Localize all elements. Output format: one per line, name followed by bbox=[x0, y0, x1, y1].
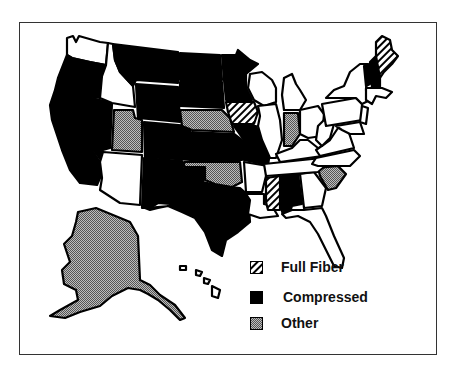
state-al bbox=[282, 174, 302, 212]
state-sd bbox=[180, 82, 224, 108]
other-swatch-icon bbox=[250, 317, 263, 330]
state-mi bbox=[282, 74, 306, 110]
full-fiber-swatch-icon bbox=[250, 261, 263, 274]
legend-label-other: Other bbox=[281, 315, 318, 331]
legend-item-other: Other bbox=[250, 315, 318, 331]
state-ms bbox=[266, 176, 280, 210]
state-hi-kauai bbox=[180, 266, 186, 270]
state-ak bbox=[50, 208, 185, 320]
state-ma-ct-ri bbox=[366, 88, 392, 104]
state-co bbox=[144, 122, 190, 160]
state-nm bbox=[142, 158, 182, 208]
state-wy bbox=[136, 84, 180, 122]
state-nd bbox=[180, 53, 222, 80]
state-nj bbox=[360, 106, 368, 124]
compressed-swatch-icon bbox=[250, 291, 263, 304]
state-ks bbox=[190, 132, 242, 160]
state-hi-maui bbox=[204, 278, 210, 284]
legend-item-compressed: Compressed bbox=[250, 289, 368, 305]
state-az bbox=[100, 152, 142, 205]
us-map bbox=[0, 0, 459, 371]
state-me bbox=[376, 36, 398, 78]
legend-label-full-fiber: Full Fiber bbox=[281, 259, 344, 275]
state-ne bbox=[180, 110, 234, 132]
state-vt bbox=[364, 64, 370, 86]
state-hi-oahu bbox=[196, 270, 202, 276]
legend-label-compressed: Compressed bbox=[283, 289, 368, 305]
state-ia bbox=[226, 102, 258, 124]
legend-item-full-fiber: Full Fiber bbox=[250, 259, 344, 275]
state-hi-big-island bbox=[212, 286, 220, 298]
